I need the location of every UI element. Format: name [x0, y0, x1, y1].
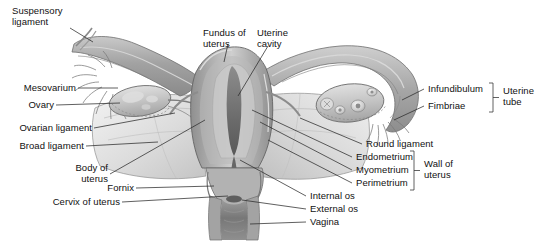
label-suspensory-ligament: Suspensory ligament — [12, 6, 63, 27]
label-perimetrium: Perimetrium — [356, 178, 408, 189]
label-vagina: Vagina — [310, 217, 339, 228]
label-uterine-tube: Uterine tube — [503, 86, 534, 107]
label-round-ligament: Round ligament — [366, 139, 433, 150]
uterine-tube-bracket — [489, 83, 499, 112]
label-cervix-of-uterus: Cervix of uterus — [26, 197, 120, 208]
label-myometrium: Myometrium — [356, 165, 409, 176]
label-fornix: Fornix — [76, 183, 134, 194]
label-ovary: Ovary — [0, 100, 54, 111]
label-internal-os: Internal os — [310, 191, 355, 202]
label-uterine-cavity: Uterine cavity — [257, 28, 288, 49]
anatomical-diagram: Suspensory ligament Mesovarium Ovary Ova… — [0, 0, 552, 243]
label-broad-ligament: Broad ligament — [0, 141, 84, 152]
label-fundus-of-uterus: Fundus of uterus — [203, 28, 246, 49]
label-infundibulum: Infundibulum — [428, 84, 483, 95]
label-ovarian-ligament: Ovarian ligament — [0, 123, 92, 134]
label-wall-of-uterus: Wall of uterus — [424, 159, 453, 180]
cervix-vagina-shape — [206, 168, 263, 240]
label-mesovarium: Mesovarium — [0, 83, 76, 94]
label-endometrium: Endometrium — [356, 152, 413, 163]
label-external-os: External os — [310, 204, 358, 215]
label-body-of-uterus: Body of uterus — [46, 163, 108, 184]
label-fimbriae: Fimbriae — [428, 101, 465, 112]
